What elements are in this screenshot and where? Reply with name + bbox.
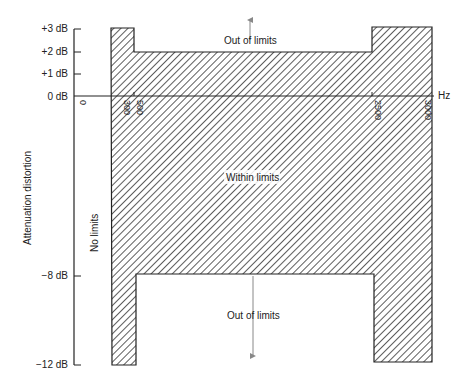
x-tick-label: 0 <box>78 100 88 105</box>
attenuation-diagram: +3 dB +2 dB +1 dB 0 dB −8 dB −12 dB 0 30… <box>0 0 476 385</box>
no-limits-label: No limits <box>89 214 100 252</box>
x-tick-label: 300 <box>122 100 132 115</box>
y-axis-title: Attenuation distortion <box>22 151 33 245</box>
upper-out-of-limits-label: Out of limits <box>224 35 277 46</box>
lower-out-of-limits-label: Out of limits <box>227 310 280 321</box>
x-tick-label: 2500 <box>373 100 383 120</box>
x-tick-label: 3000 <box>423 100 433 120</box>
y-tick-label: +3 dB <box>42 23 69 34</box>
y-tick-label: 0 dB <box>47 91 68 102</box>
y-tick-label: +1 dB <box>42 68 69 79</box>
y-tick-label: −12 dB <box>36 359 68 370</box>
within-limits-label: Within limits <box>226 172 279 183</box>
x-tick-label: 500 <box>135 100 145 115</box>
x-axis-unit: Hz <box>438 90 450 101</box>
y-tick-label: +2 dB <box>42 46 69 57</box>
y-tick-label: −8 dB <box>42 270 69 281</box>
